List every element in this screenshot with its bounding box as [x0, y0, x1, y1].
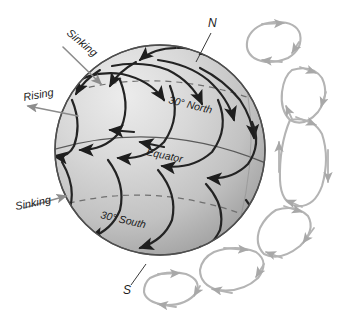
circulation-diagram-svg: Sinking Rising Sinking N S 30° North Equ…	[0, 0, 345, 318]
cell-polar-south	[144, 273, 200, 307]
label-south-pole: S	[123, 283, 131, 297]
label-rising: Rising	[22, 86, 55, 103]
cell-hadley-south	[258, 206, 314, 258]
label-sinking-south: Sinking	[14, 193, 53, 212]
cell-polar-north	[247, 22, 301, 62]
cell-ferrel-south	[200, 248, 264, 293]
south-pole-leader	[131, 264, 146, 285]
cell-hadley-north	[279, 117, 328, 207]
label-north-pole: N	[208, 16, 217, 30]
atmospheric-circulation-figure: Sinking Rising Sinking N S 30° North Equ…	[0, 0, 345, 318]
cell-ferrel-north	[282, 67, 326, 123]
